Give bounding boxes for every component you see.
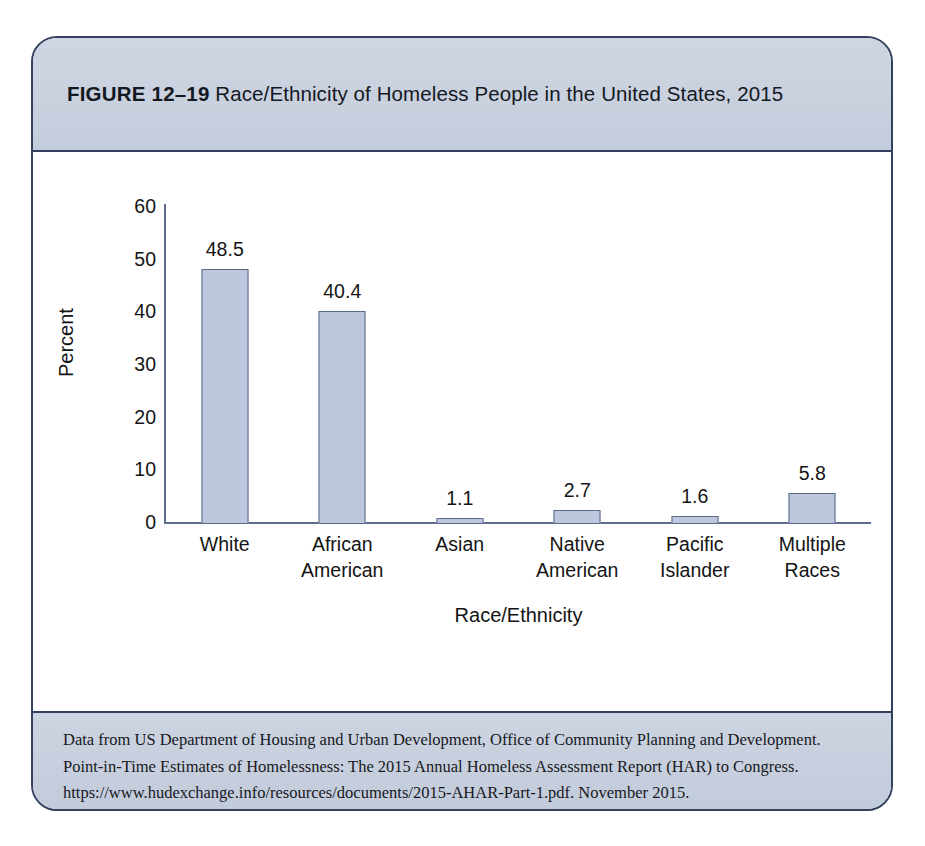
x-tick-label-line: Native [519,532,637,558]
y-axis-tick-labels: 0102030405060 [90,152,156,713]
bar [554,510,601,524]
bar-series: 48.540.41.12.71.65.8 [166,152,871,524]
y-tick-label: 30 [102,353,156,376]
bar-slot: 2.7 [519,152,637,524]
x-tick-label-line: Races [754,558,872,584]
bar-value-label: 5.8 [799,462,826,485]
x-tick-label: Asian [401,532,519,558]
figure-header-band: FIGURE 12–19 Race/Ethnicity of Homeless … [33,38,891,152]
figure-container: FIGURE 12–19 Race/Ethnicity of Homeless … [31,36,893,811]
figure-title-text: Race/Ethnicity of Homeless People in the… [215,82,783,105]
x-axis-title: Race/Ethnicity [166,604,871,627]
footer-line: Data from US Department of Housing and U… [63,727,891,754]
bar-slot: 1.1 [401,152,519,524]
x-tick-label-line: American [284,558,402,584]
x-tick-label: White [166,532,284,558]
bar-slot: 48.5 [166,152,284,524]
bar [671,516,718,524]
bar [319,311,366,524]
x-axis-tick-labels: WhiteAfricanAmericanAsianNativeAmericanP… [166,532,871,602]
bar-value-label: 40.4 [323,280,361,303]
y-tick-label: 0 [102,511,156,534]
bar [201,269,248,524]
bar-value-label: 48.5 [206,238,244,261]
figure-number: FIGURE 12–19 [67,82,210,105]
figure-title: FIGURE 12–19 Race/Ethnicity of Homeless … [33,82,803,107]
bar-slot: 1.6 [636,152,754,524]
x-tick-label-line: African [284,532,402,558]
figure-source-footer: Data from US Department of Housing and U… [33,711,891,809]
footer-line: https://www.hudexchange.info/resources/d… [63,780,891,807]
y-tick-label: 60 [102,195,156,218]
bar-value-label: 2.7 [564,479,591,502]
x-tick-label-line: Pacific [636,532,754,558]
bar [789,493,836,524]
x-tick-label: AfricanAmerican [284,532,402,583]
x-tick-label-line: Multiple [754,532,872,558]
x-tick-label: MultipleRaces [754,532,872,583]
x-tick-label-line: White [166,532,284,558]
y-tick-label: 20 [102,405,156,428]
bar [436,518,483,524]
x-tick-label: PacificIslander [636,532,754,583]
x-tick-label-line: Asian [401,532,519,558]
bar-slot: 40.4 [284,152,402,524]
y-tick-label: 40 [102,300,156,323]
bar-slot: 5.8 [754,152,872,524]
x-tick-label-line: Islander [636,558,754,584]
bar-value-label: 1.1 [446,487,473,510]
y-tick-label: 50 [102,247,156,270]
x-tick-label: NativeAmerican [519,532,637,583]
footer-line: Point-in-Time Estimates of Homelessness:… [63,754,891,781]
y-axis-title: Percent [55,308,78,377]
bar-value-label: 1.6 [681,485,708,508]
y-tick-label: 10 [102,458,156,481]
x-tick-label-line: American [519,558,637,584]
chart-plot-area: Percent 0102030405060 48.540.41.12.71.65… [33,152,891,713]
